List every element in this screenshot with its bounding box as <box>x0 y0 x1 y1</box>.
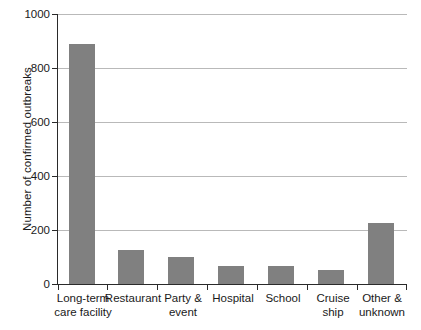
y-tick-label-1000: 1000 <box>8 9 50 20</box>
y-tick-label-600: 600 <box>8 117 50 128</box>
x-tick-mark-3 <box>207 285 208 290</box>
gridline-1000 <box>58 14 407 15</box>
bar-hospital <box>218 266 244 284</box>
bar-long-term-care-facility <box>69 44 95 284</box>
gridline-400 <box>58 176 407 177</box>
bar-restaurant <box>118 250 144 284</box>
x-label-other-unknown: Other & unknown <box>349 292 415 319</box>
gridline-600 <box>58 122 407 123</box>
plot-area <box>58 14 407 284</box>
x-axis-line <box>58 284 407 285</box>
bar-chart: Number of confirmed outbreaks 1000 800 6… <box>0 0 421 330</box>
x-tick-mark-2 <box>157 285 158 290</box>
x-tick-mark-7 <box>406 285 407 290</box>
x-tick-mark-4 <box>257 285 258 290</box>
bar-school <box>268 266 294 284</box>
bar-cruise-ship <box>318 270 344 284</box>
x-tick-mark-1 <box>107 285 108 290</box>
y-tick-label-0: 0 <box>8 279 50 290</box>
x-tick-mark-6 <box>357 285 358 290</box>
gridline-800 <box>58 68 407 69</box>
bar-other-unknown <box>368 223 394 284</box>
y-axis-title: Number of confirmed outbreaks <box>18 14 36 284</box>
gridline-200 <box>58 230 407 231</box>
bar-party-event <box>168 257 194 284</box>
x-tick-mark-5 <box>307 285 308 290</box>
x-tick-mark-0 <box>58 285 59 290</box>
y-tick-label-400: 400 <box>8 171 50 182</box>
y-tick-label-200: 200 <box>8 225 50 236</box>
y-tick-label-800: 800 <box>8 63 50 74</box>
